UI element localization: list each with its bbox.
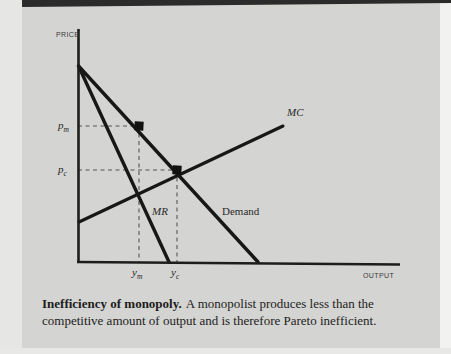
y-axis-title: PRICE	[56, 31, 79, 38]
scanned-figure-page: PRICE OUTPUT MC MR Demand pm pc ym yc In…	[0, 0, 451, 354]
demand-curve-label: Demand	[222, 205, 259, 217]
caption-headword: Inefficiency of monopoly.	[42, 296, 182, 311]
monopoly-point-marker	[134, 121, 143, 130]
scan-right-margin	[440, 0, 451, 354]
y-tick-p-c-subscript: c	[64, 169, 67, 178]
mr-curve	[79, 66, 170, 262]
figure-plot-area: PRICE OUTPUT MC MR Demand pm pc ym yc	[22, 7, 440, 288]
scan-left-margin	[0, 0, 22, 354]
mc-curve-label: MC	[287, 106, 304, 118]
scan-top-dark-bar	[22, 0, 451, 7]
monopoly-inefficiency-chart	[22, 7, 440, 288]
x-tick-y-c-subscript: c	[176, 272, 179, 281]
x-axis	[77, 262, 400, 265]
competitive-point-marker	[172, 165, 181, 174]
x-tick-y-m: ym	[132, 266, 142, 281]
demand-curve	[79, 66, 259, 262]
x-tick-y-m-subscript: m	[137, 272, 142, 281]
y-tick-p-m: pm	[58, 119, 69, 134]
mr-curve-label: MR	[152, 205, 168, 217]
figure-caption: Inefficiency of monopoly.A monopolist pr…	[42, 296, 417, 329]
y-tick-p-c: pc	[58, 163, 67, 178]
y-tick-p-m-subscript: m	[64, 125, 69, 134]
x-tick-y-c: yc	[171, 266, 179, 281]
guide-lines	[78, 126, 177, 262]
x-axis-title: OUTPUT	[363, 272, 394, 279]
scan-bottom-margin	[0, 348, 451, 354]
